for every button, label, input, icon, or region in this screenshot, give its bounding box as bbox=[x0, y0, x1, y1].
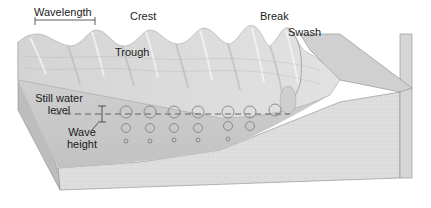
label-wave-height: Wave height bbox=[62, 126, 102, 150]
label-wave-height-line2: height bbox=[62, 138, 102, 150]
label-wave-height-line1: Wave bbox=[62, 126, 102, 138]
label-still-water-level: Still water level bbox=[32, 92, 86, 116]
label-swash: Swash bbox=[288, 26, 321, 38]
label-trough: Trough bbox=[115, 46, 149, 58]
label-wavelength: Wavelength bbox=[34, 6, 92, 18]
wavelength-bracket bbox=[35, 17, 95, 25]
wave-anatomy-diagram: Wavelength Crest Trough Break Swash Stil… bbox=[0, 0, 431, 208]
label-still-water-line2: level bbox=[32, 104, 86, 116]
label-still-water-line1: Still water bbox=[32, 92, 86, 104]
block-right-face bbox=[400, 34, 412, 178]
breaking-wave-body bbox=[280, 86, 296, 114]
label-break: Break bbox=[260, 10, 289, 22]
label-crest: Crest bbox=[130, 10, 156, 22]
